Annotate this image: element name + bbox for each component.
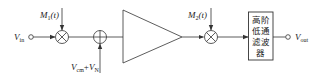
multiplier-1-icon [56, 31, 69, 44]
multiplier-2-icon [205, 31, 218, 44]
filter-label-line-2: 低通 [252, 26, 270, 36]
input-label: Vin [14, 32, 24, 43]
filter-label-line-3: 滤波 [252, 37, 270, 47]
filter-label-line-4: 器 [256, 48, 265, 58]
amplifier-icon [123, 10, 182, 63]
block-diagram: Vin M1(t) Vcm+VN M2(t) 高阶 低通 滤波 器 Vout [0, 0, 320, 75]
filter-label-line-1: 高阶 [252, 15, 270, 25]
modulator-1-label: M1(t) [39, 10, 59, 21]
output-terminal-icon [286, 35, 291, 40]
adder-icon [94, 31, 107, 44]
adder-input-label: Vcm+VN [71, 62, 99, 73]
modulator-2-label: M2(t) [187, 10, 207, 21]
output-label: Vout [295, 32, 309, 43]
input-terminal-icon [29, 35, 34, 40]
